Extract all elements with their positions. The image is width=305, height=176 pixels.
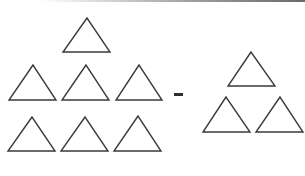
left-triangle-group	[8, 18, 162, 151]
diagram-canvas	[0, 0, 305, 176]
right-triangle-group	[203, 52, 303, 132]
triangle-icon	[8, 117, 55, 151]
triangle-icon	[9, 65, 56, 100]
triangle-icon	[62, 65, 109, 100]
triangle-icon	[114, 116, 161, 151]
triangle-icon	[63, 18, 110, 52]
triangle-icon	[256, 97, 303, 132]
minus-sign-icon	[174, 93, 183, 96]
triangle-icon	[203, 97, 250, 132]
triangle-icon	[228, 52, 275, 86]
triangle-icon	[116, 65, 162, 100]
triangle-icon	[61, 117, 108, 151]
